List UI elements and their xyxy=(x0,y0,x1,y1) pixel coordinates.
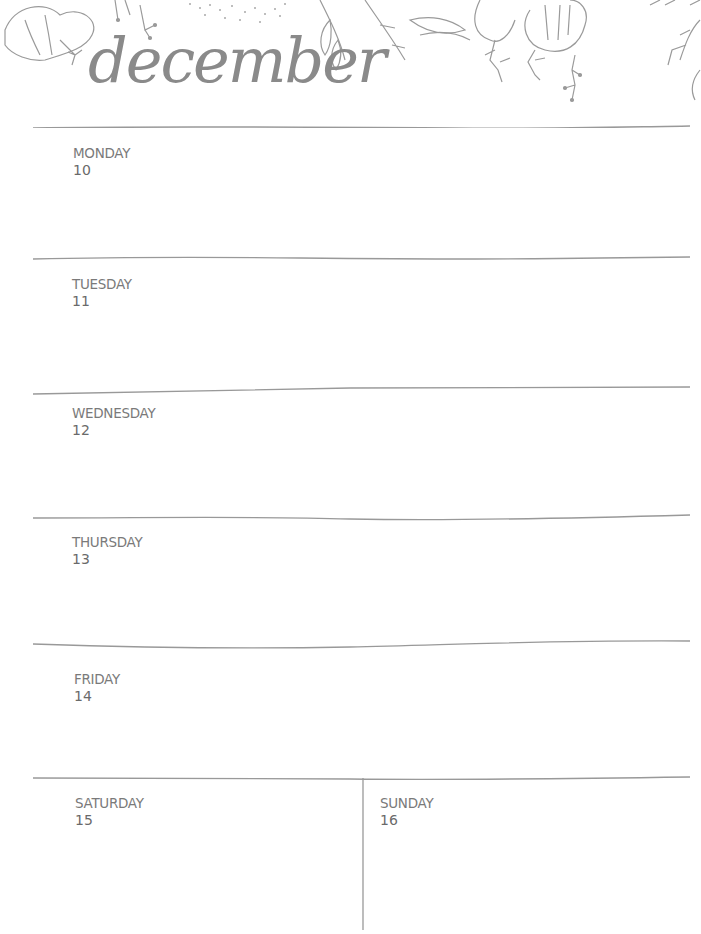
month-title: december xyxy=(88,30,385,92)
day-date: 10 xyxy=(73,161,130,179)
day-saturday: SATURDAY 15 xyxy=(75,795,144,829)
day-date: 16 xyxy=(380,811,433,829)
day-date: 11 xyxy=(72,292,132,310)
day-date: 14 xyxy=(74,687,120,705)
day-name: WEDNESDAY xyxy=(72,405,155,421)
day-name: FRIDAY xyxy=(74,671,120,687)
day-name: TUESDAY xyxy=(72,276,132,292)
divider xyxy=(0,637,701,651)
day-name: SATURDAY xyxy=(75,795,144,811)
day-thursday: THURSDAY 13 xyxy=(72,534,142,568)
day-name: THURSDAY xyxy=(72,534,142,550)
divider xyxy=(0,772,701,786)
day-date: 15 xyxy=(75,811,144,829)
weekend-divider xyxy=(362,778,364,930)
divider xyxy=(0,382,701,396)
day-friday: FRIDAY 14 xyxy=(74,671,120,705)
day-date: 12 xyxy=(72,421,155,439)
divider xyxy=(0,511,701,525)
day-sunday: SUNDAY 16 xyxy=(380,795,433,829)
day-wednesday: WEDNESDAY 12 xyxy=(72,405,155,439)
day-date: 13 xyxy=(72,550,142,568)
day-name: MONDAY xyxy=(73,145,130,161)
day-name: SUNDAY xyxy=(380,795,433,811)
day-monday: MONDAY 10 xyxy=(73,145,130,179)
day-tuesday: TUESDAY 11 xyxy=(72,276,132,310)
floral-header: december xyxy=(0,0,701,128)
divider xyxy=(0,251,701,265)
